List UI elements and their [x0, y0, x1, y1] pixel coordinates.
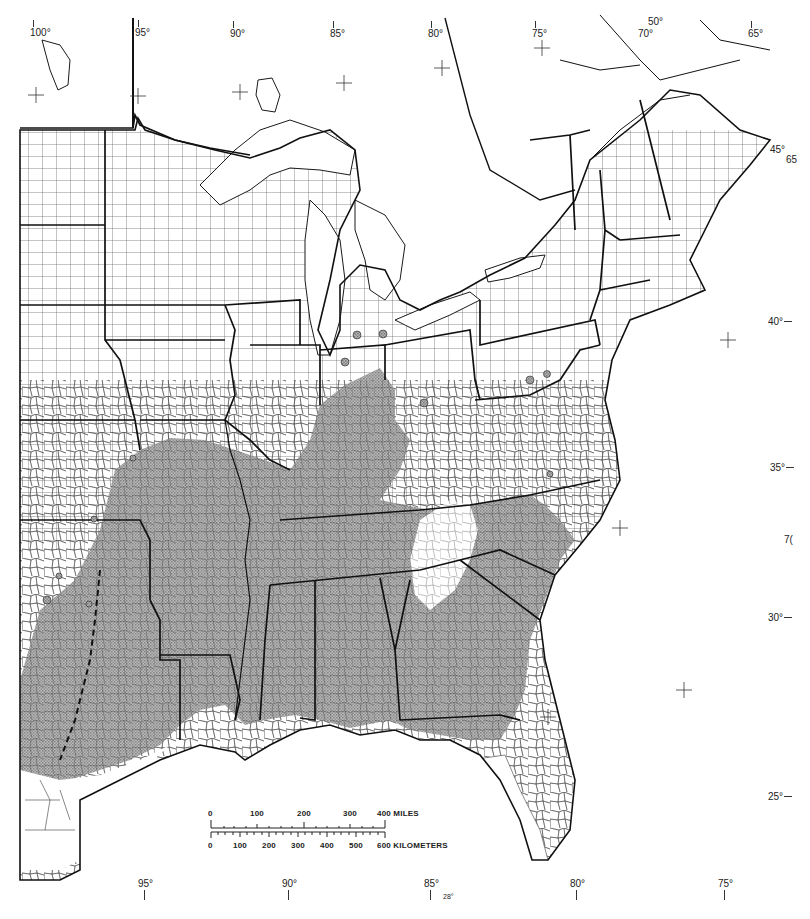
scale-km-100: 100: [233, 841, 247, 850]
lat-label-35: 35°: [770, 463, 785, 473]
scale-miles-0: 0: [208, 809, 213, 818]
lon-bottom-95: 95°: [138, 879, 153, 889]
scale-km-500: 500: [349, 841, 363, 850]
land-mass: [0, 0, 810, 919]
lon-label-70-partial: 7(: [784, 535, 793, 545]
lon-label-100: 100°: [30, 28, 51, 38]
scale-bar: 0 100 200 300 400 MILES 0 100 200 300 40…: [205, 808, 445, 858]
lon-label-90: 90°: [230, 29, 245, 39]
scale-km-200: 200: [262, 841, 276, 850]
lon-label-65: 65°: [748, 29, 763, 39]
scale-km-400: 400: [320, 841, 334, 850]
map-canvas: [0, 0, 810, 919]
lon-bottom-80: 80°: [570, 879, 585, 889]
lat-label-30: 30°: [768, 613, 783, 623]
lon-label-75: 75°: [532, 29, 547, 39]
lon-label-65-partial: 65: [786, 155, 797, 165]
lake-nipigon: [256, 78, 280, 112]
scale-km-300: 300: [291, 841, 305, 850]
scale-miles-100: 100: [250, 809, 264, 818]
lon-bottom-90: 90°: [282, 879, 297, 889]
lon-label-95: 95°: [135, 28, 150, 38]
lon-label-85: 85°: [330, 29, 345, 39]
lat-label-50: 50°: [648, 17, 663, 27]
scale-km-label: 600 KILOMETERS: [377, 841, 448, 850]
scale-miles-label: 400 MILES: [377, 809, 419, 818]
scale-km-0: 0: [208, 841, 213, 850]
lat-label-45: 45°: [770, 145, 785, 155]
lat-label-25: 25°: [768, 792, 783, 802]
scale-miles-300: 300: [343, 809, 357, 818]
lon-label-70: 70°: [638, 29, 653, 39]
lat-label-40: 40°: [768, 317, 783, 327]
lon-label-80: 80°: [428, 29, 443, 39]
lat-bottom-28: 28°: [443, 893, 454, 900]
lon-bottom-85: 85°: [424, 879, 439, 889]
lake-winnipeg: [42, 40, 70, 90]
lon-bottom-75: 75°: [718, 879, 733, 889]
scale-miles-200: 200: [297, 809, 311, 818]
meridian-80-line: [445, 18, 575, 200]
